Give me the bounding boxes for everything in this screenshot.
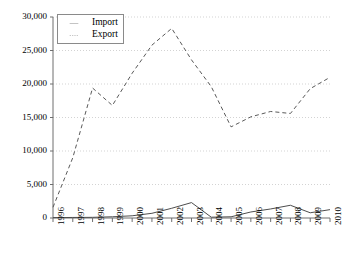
y-tick-label: 20,000 [22, 79, 47, 88]
legend: Import Export [57, 14, 124, 44]
y-tick-label: 5,000 [27, 180, 47, 189]
y-tick-label: 10,000 [22, 146, 47, 155]
x-tick-label: 1996 [57, 207, 66, 225]
x-tick-label: 1999 [116, 207, 125, 225]
legend-label-import: Import [92, 18, 118, 28]
x-tick-label: 2006 [255, 207, 264, 225]
x-tick-label: 1998 [97, 207, 106, 225]
legend-entry-export: Export [61, 29, 118, 41]
x-tick-label: 2002 [176, 207, 185, 225]
x-tick-label: 2007 [275, 207, 284, 225]
x-axis-ticks [53, 218, 330, 222]
legend-sample-dashed [61, 35, 87, 36]
legend-label-export: Export [92, 30, 118, 40]
x-tick-label: 2000 [136, 207, 145, 225]
y-tick-label: 30,000 [22, 12, 47, 21]
y-tick-label: 25,000 [22, 46, 47, 55]
legend-sample-solid [61, 23, 87, 24]
x-tick-label: 2009 [314, 207, 323, 225]
x-tick-label: 2001 [156, 207, 165, 225]
y-tick-label: 0 [43, 213, 48, 222]
x-tick-label: 2008 [294, 207, 303, 225]
legend-entry-import: Import [61, 17, 118, 29]
x-tick-label: 2003 [196, 207, 205, 225]
y-tick-label: 15,000 [22, 113, 47, 122]
x-tick-label: 2005 [235, 207, 244, 225]
line-chart: 05,00010,00015,00020,00025,00030,000 199… [0, 0, 350, 261]
x-tick-label: 2010 [334, 207, 343, 225]
import-line [53, 203, 330, 218]
x-tick-label: 1997 [77, 207, 86, 225]
x-tick-label: 2004 [215, 207, 224, 225]
